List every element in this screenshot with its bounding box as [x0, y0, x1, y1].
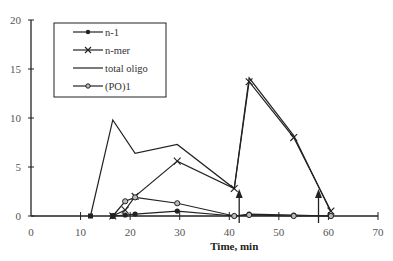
- filled-circle-marker-icon: [175, 209, 180, 214]
- open-circle-marker-icon: [247, 212, 252, 217]
- x-tick-label: 50: [273, 226, 285, 238]
- y-tick-label: 20: [10, 14, 22, 26]
- open-circle-marker-icon: [328, 213, 333, 218]
- arrow-up-icon: [236, 189, 243, 223]
- open-circle-marker-icon: [86, 84, 90, 88]
- open-circle-marker-icon: [232, 213, 237, 218]
- x-tick-label: 60: [323, 226, 335, 238]
- x-tick-label: 20: [125, 226, 137, 238]
- y-tick-label: 5: [16, 161, 22, 173]
- square-marker-icon: [110, 214, 115, 219]
- series-layer: [88, 78, 334, 220]
- open-circle-marker-icon: [133, 195, 138, 200]
- x-tick-label: 10: [75, 226, 87, 238]
- open-circle-marker-icon: [123, 199, 128, 204]
- x-tick-label: 70: [373, 226, 385, 238]
- legend-label: n-1: [105, 27, 119, 38]
- series-total-oligo: [90, 78, 330, 216]
- y-tick-label: 15: [10, 63, 22, 75]
- series-line: [90, 78, 330, 216]
- legend-label: (PO)1: [105, 81, 131, 93]
- arrow-up-icon: [315, 189, 322, 223]
- x-axis-title: Time, min: [210, 240, 258, 252]
- y-tick-label: 0: [16, 210, 22, 222]
- open-circle-marker-icon: [175, 201, 180, 206]
- x-tick-label: 40: [224, 226, 236, 238]
- filled-circle-marker-icon: [86, 30, 90, 34]
- square-marker-icon: [88, 214, 93, 219]
- legend-label: n-mer: [105, 45, 131, 56]
- open-circle-marker-icon: [291, 213, 296, 218]
- filled-circle-marker-icon: [133, 211, 138, 216]
- chart: 05101520010203040506070Time, min n-1n-me…: [0, 0, 393, 261]
- x-tick-label: 0: [28, 226, 34, 238]
- legend: n-1n-mertotal oligo(PO)1: [54, 23, 166, 97]
- legend-label: total oligo: [105, 63, 148, 74]
- series-line: [113, 82, 331, 216]
- x-marker-icon: [174, 158, 181, 165]
- filled-circle-marker-icon: [123, 212, 128, 217]
- y-tick-label: 10: [10, 112, 22, 124]
- x-tick-label: 30: [174, 226, 186, 238]
